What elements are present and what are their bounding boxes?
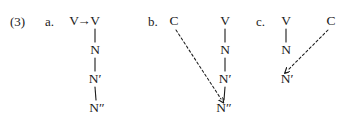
tree-node-b-N-2: N [220, 43, 230, 57]
tree-branch-b-2 [224, 87, 225, 100]
tree-node-b-V-1: V [220, 14, 230, 28]
tree-node-c-N-2: N [281, 43, 291, 57]
solid-tree-edges [95, 29, 286, 100]
dashed-movement-arrows [176, 30, 328, 99]
tree-node-a-N-1: N [90, 43, 100, 57]
tree-node-c-V-0: V [281, 14, 291, 28]
tree-edge-layer [0, 0, 358, 124]
tree-node-b-C-0: C [169, 14, 178, 28]
tree-node-b-N-4: N″ [216, 101, 231, 115]
tree-branch-a-2 [95, 87, 96, 100]
tree-node-b-N-3: N′ [219, 72, 232, 86]
tree-node-a-N-2: N′ [89, 72, 102, 86]
movement-arrow-b-0 [176, 30, 221, 99]
tree-node-a-V-0: V [90, 14, 100, 28]
tree-node-a-N-3: N″ [89, 101, 104, 115]
tree-node-c-N-3: N′ [281, 72, 294, 86]
syntax-tree-figure: (3) a. b. c. V → VNN′N″CVNN′N″VCNN′ [0, 0, 358, 124]
tree-node-c-C-1: C [326, 14, 335, 28]
movement-arrow-c-0 [288, 30, 328, 70]
